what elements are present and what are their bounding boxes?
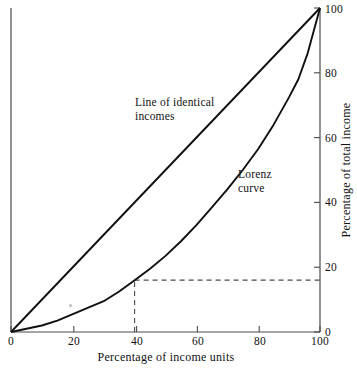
y-tick-label-40: 40 <box>325 196 337 208</box>
y-tick-label-60: 60 <box>325 132 337 144</box>
print-speck <box>69 304 72 307</box>
line-of-identical-incomes-label: Line of identical incomes <box>135 96 214 123</box>
y-tick-label-20: 20 <box>325 261 337 273</box>
x-tick-label-40: 40 <box>131 335 143 347</box>
x-tick-label-80: 80 <box>254 335 266 347</box>
y-axis-ticks <box>314 8 320 332</box>
lorenz-curve-figure: 0 20 40 60 80 100 0 20 40 60 80 100 Perc… <box>0 0 357 368</box>
x-tick-label-20: 20 <box>68 335 80 347</box>
y-tick-label-80: 80 <box>325 67 337 79</box>
lorenz-curve-label: Lorenz curve <box>238 168 272 195</box>
y-tick-label-100: 100 <box>325 3 343 15</box>
x-axis-title: Percentage of income units <box>98 350 235 365</box>
x-tick-label-0: 0 <box>8 335 14 347</box>
line-of-identical-incomes <box>11 8 320 332</box>
y-tick-label-0: 0 <box>325 326 331 338</box>
x-tick-label-60: 60 <box>192 335 204 347</box>
x-axis-ticks <box>11 326 320 332</box>
y-axis-title: Percentage of total income <box>339 103 354 238</box>
plot-canvas <box>0 0 357 368</box>
